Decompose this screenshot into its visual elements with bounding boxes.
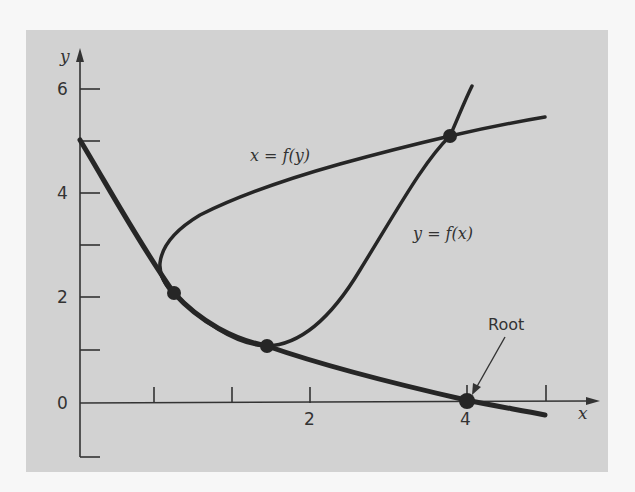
- y-tick-label-0: 0: [57, 393, 68, 413]
- root-annotation-label: Root: [488, 315, 524, 334]
- plot-panel: [26, 30, 608, 472]
- y-tick-label-6: 6: [57, 79, 68, 99]
- curve-label-x-equals-f-of-y: x = f(y): [250, 146, 310, 165]
- intersection-point: [260, 339, 274, 353]
- y-axis-label: y: [59, 46, 70, 66]
- curve-label-y-equals-f-of-x: y = f(x): [412, 224, 473, 243]
- y-tick-label-4: 4: [57, 183, 68, 203]
- intersection-point: [167, 286, 181, 300]
- x-tick-label-4: 4: [460, 409, 471, 429]
- x-axis-label: x: [578, 403, 588, 423]
- y-tick-label-2: 2: [57, 287, 68, 307]
- x-tick-label-2: 2: [304, 409, 315, 429]
- root-point: [459, 393, 475, 409]
- intersection-point: [443, 129, 457, 143]
- chart-figure: y x 6 4 2 0 2 4 x = f(y) y = f(x) Root: [0, 0, 635, 492]
